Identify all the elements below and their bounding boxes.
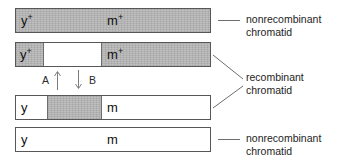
crossover-label-b: B [89, 75, 96, 86]
chromatid-2-right-allele: m+ [107, 48, 123, 61]
figure-canvas: y+ m+ y+ m+ A B y m y m nonrecom [0, 0, 347, 157]
chromatid-2-left-allele: y+ [20, 48, 32, 61]
callout-bottom-line-1: nonrecombinant [246, 132, 321, 145]
chromatid-4-right-allele: m [107, 133, 118, 146]
callout-bottom: nonrecombinant chromatid [246, 132, 321, 157]
callout-middle-line-2: chromatid [246, 84, 304, 97]
chromatid-1-left-allele: y+ [21, 14, 33, 27]
chromatid-1-right-allele: m+ [107, 14, 123, 27]
chromatid-3-segment-gray-middle [47, 96, 101, 119]
arrow-up-icon [53, 70, 62, 90]
arrow-down-icon [74, 70, 83, 90]
callout-top-line-1: nonrecombinant [246, 13, 321, 26]
callout-top: nonrecombinant chromatid [246, 13, 321, 38]
leader-line-bottom [218, 139, 240, 140]
chromatid-3-left-allele: y [21, 101, 28, 114]
chromatid-4-left-allele: y [21, 133, 28, 146]
chromatid-2-segment-white-middle [43, 43, 101, 66]
callout-bottom-line-2: chromatid [246, 145, 321, 158]
callout-middle: recombinant chromatid [246, 71, 304, 96]
crossover-label-a: A [42, 75, 49, 86]
callout-top-line-2: chromatid [246, 26, 321, 39]
chromatid-3-right-allele: m [107, 101, 118, 114]
callout-middle-line-1: recombinant [246, 71, 304, 84]
leader-line-recombinant-lower [213, 82, 245, 114]
leader-line-top [218, 20, 240, 21]
